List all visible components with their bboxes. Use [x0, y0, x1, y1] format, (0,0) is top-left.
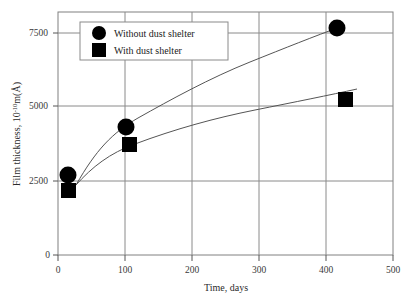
y-axis-title-tail: m(Å) — [11, 82, 23, 104]
xtick-label-500: 500 — [386, 265, 401, 275]
xtick-label-100: 100 — [118, 265, 133, 275]
ytick-label-2500: 2500 — [29, 176, 48, 186]
x-axis-title: Time, days — [204, 282, 248, 293]
ytick-label-7500: 7500 — [29, 28, 48, 38]
film-thickness-chart: 7500 5000 2500 0 0 100 200 300 400 500 T… — [0, 0, 413, 296]
data-point-circle-3 — [329, 20, 346, 37]
xtick-label-0: 0 — [56, 265, 61, 275]
ytick-label-5000: 5000 — [29, 101, 48, 111]
data-point-square-3 — [338, 92, 353, 107]
ytick-label-0: 0 — [45, 250, 50, 260]
data-point-square-1 — [61, 183, 76, 198]
legend: Without dust shelter With dust shelter — [80, 22, 228, 60]
y-axis-title-group: Film thickness, 10-10m(Å) — [11, 82, 24, 186]
y-axis-title-main: Film thickness, 10 — [11, 112, 22, 186]
legend-label-without-dust-shelter: Without dust shelter — [114, 28, 195, 39]
data-point-circle-1 — [60, 167, 77, 184]
xtick-label-200: 200 — [185, 265, 200, 275]
data-point-square-2 — [122, 137, 137, 152]
y-axis-title: Film thickness, 10-10m(Å) — [11, 82, 24, 186]
data-point-circle-2 — [118, 119, 135, 136]
xtick-label-300: 300 — [252, 265, 267, 275]
legend-marker-circle-icon — [92, 26, 106, 40]
xtick-label-400: 400 — [319, 265, 334, 275]
legend-marker-square-icon — [92, 43, 106, 57]
y-axis-title-exponent: -10 — [11, 104, 18, 113]
legend-label-with-dust-shelter: With dust shelter — [114, 45, 183, 56]
chart-page: 7500 5000 2500 0 0 100 200 300 400 500 T… — [0, 0, 413, 296]
